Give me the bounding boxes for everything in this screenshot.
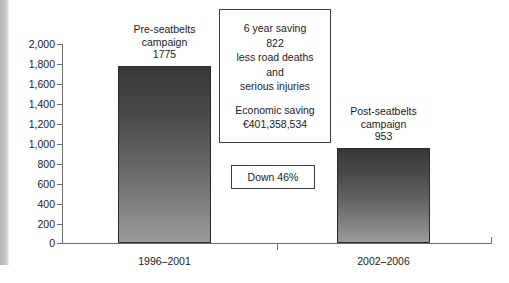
saving-line-4: and	[266, 66, 284, 78]
y-axis-tick-label: 600	[9, 179, 55, 190]
bar-value-pre: 1775	[153, 48, 176, 60]
bar-value-post: 953	[375, 130, 393, 142]
bar-2002-2006	[337, 148, 430, 243]
bar-label-post-line2: campaign	[361, 118, 407, 130]
y-axis-tick-label: 200	[9, 219, 55, 230]
down-percentage-label: Down 46%	[248, 171, 299, 183]
y-tick-mark	[57, 104, 63, 105]
bar-label-pre-seatbelts: Pre-seatbelts campaign 1775	[114, 23, 215, 61]
down-percentage-callout: Down 46%	[231, 165, 315, 189]
y-axis-tick-label: 800	[9, 159, 55, 170]
bar-label-post-seatbelts: Post-seatbelts campaign 953	[333, 105, 434, 143]
y-tick-mark	[57, 64, 63, 65]
y-axis-tick-label: 1,400	[9, 99, 55, 110]
bar-1996-2001	[118, 66, 211, 243]
y-axis-tick-label: 1,600	[9, 79, 55, 90]
y-tick-mark	[57, 204, 63, 205]
six-year-saving-callout: 6 year saving 822 less road deaths and s…	[219, 9, 331, 143]
y-axis-tick-label: 1,000	[9, 139, 55, 150]
y-tick-mark	[57, 184, 63, 185]
bar-label-pre-line1: Pre-seatbelts	[134, 23, 196, 35]
saving-line-7: €401,358,534	[243, 118, 307, 130]
y-axis-tick-label: 1,800	[9, 59, 55, 70]
saving-line-6: Economic saving	[235, 104, 314, 116]
y-axis-tick-label: 1,200	[9, 119, 55, 130]
bar-label-post-line1: Post-seatbelts	[350, 105, 417, 117]
scan-edge-artifact	[0, 0, 9, 265]
y-tick-mark	[57, 44, 63, 45]
bar-label-pre-line2: campaign	[142, 36, 188, 48]
x-axis-label-1996-2001: 1996–2001	[114, 256, 215, 267]
x-axis-label-2002-2006: 2002–2006	[333, 256, 434, 267]
saving-spacer	[220, 94, 330, 103]
bar-chart-figure: 2,000 1,800 1,600 1,400 1,200 1,000 800 …	[0, 0, 509, 283]
y-axis-tick-label: 0	[9, 238, 55, 249]
saving-line-5: serious injuries	[240, 80, 310, 92]
y-axis-tick-label: 400	[9, 199, 55, 210]
x-axis-end-tick	[491, 237, 492, 244]
y-tick-mark	[57, 84, 63, 85]
y-tick-mark	[57, 224, 63, 225]
saving-line-3: less road deaths	[236, 51, 313, 63]
saving-line-1: 6 year saving	[244, 22, 306, 34]
saving-line-2: 822	[266, 37, 284, 49]
y-tick-mark	[57, 164, 63, 165]
y-tick-mark	[57, 124, 63, 125]
y-tick-mark	[57, 243, 63, 244]
x-axis-middle-tick	[277, 243, 278, 250]
y-tick-mark	[57, 144, 63, 145]
y-axis-tick-label: 2,000	[9, 39, 55, 50]
